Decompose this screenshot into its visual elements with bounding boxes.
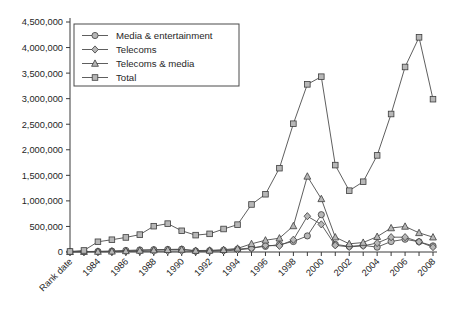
legend-marker [92,75,98,81]
data-point [346,188,352,194]
y-tick-label: 4,000,000 [22,43,63,53]
data-point [402,223,409,229]
x-tick-label: Rank date [37,256,74,293]
data-point [416,35,422,41]
data-point [319,74,325,80]
x-tick-label: 1984 [81,256,103,278]
data-point [235,222,241,228]
data-point [277,165,283,171]
series-telecoms-media [67,173,437,255]
legend-label: Media & entertainment [116,30,213,41]
data-point [290,222,297,228]
data-point [360,179,366,185]
y-tick-label: 1,000,000 [22,196,63,206]
x-tick-label: 1988 [136,256,158,278]
data-point [332,162,338,168]
x-tick-label: 2002 [332,256,354,278]
data-point [318,221,325,228]
data-point [388,111,394,117]
data-point [179,228,185,234]
x-tick-label: 1986 [109,256,131,278]
y-tick-label: 4,500,000 [22,17,63,27]
data-point [67,249,73,255]
y-tick-label: 3,500,000 [22,69,63,79]
data-point [304,213,311,220]
y-tick-label: 1,500,000 [22,171,63,181]
y-tick-label: 2,000,000 [22,145,63,155]
data-point [193,232,199,238]
x-tick-label: 1992 [192,256,214,278]
data-point [207,231,213,237]
data-point [304,173,311,179]
x-axis: Rank date1984198619881990199219941996199… [37,252,437,293]
line-chart: 0500,0001,000,0001,500,0002,000,0002,500… [0,0,449,313]
data-point [291,121,297,127]
data-point [137,232,143,238]
x-tick-label: 1990 [164,256,186,278]
data-point [318,212,324,218]
legend-label: Telecoms & media [116,58,195,69]
data-point [81,248,87,254]
y-axis: 0500,0001,000,0001,500,0002,000,0002,500… [22,17,70,257]
data-point [95,239,101,245]
legend-label: Total [116,72,136,83]
legend-label: Telecoms [116,44,157,55]
data-point [249,202,255,208]
data-point [165,221,171,227]
x-tick-label: 1994 [220,256,242,278]
y-tick-label: 500,000 [29,222,63,232]
data-point [402,64,408,70]
x-tick-label: 2008 [416,256,438,278]
chart-container: 0500,0001,000,0001,500,0002,000,0002,500… [0,0,449,313]
data-point [318,195,325,201]
x-tick-label: 2000 [304,256,326,278]
data-point [221,226,227,232]
y-tick-label: 0 [58,247,63,257]
data-point [123,235,129,241]
x-tick-label: 1996 [248,256,270,278]
legend: Media & entertainmentTelecomsTelecoms & … [74,24,239,86]
data-point [109,237,115,243]
data-point [430,96,436,102]
data-point [360,239,367,245]
data-point [374,233,381,239]
data-point [416,229,423,235]
data-point [263,191,269,197]
legend-marker [92,32,98,38]
x-tick-label: 1998 [276,256,298,278]
data-point [374,153,380,159]
data-point [304,233,310,239]
x-tick-label: 2006 [388,256,410,278]
data-point [332,234,339,240]
x-tick-label: 2004 [360,256,382,278]
y-tick-label: 2,500,000 [22,120,63,130]
data-point [305,82,311,88]
y-tick-label: 3,000,000 [22,94,63,104]
data-point [151,223,157,229]
